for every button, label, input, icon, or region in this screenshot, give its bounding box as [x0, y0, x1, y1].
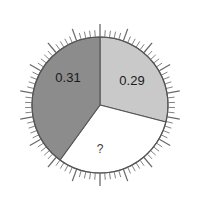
minor-tick-mark [65, 39, 68, 45]
minor-tick-mark [166, 87, 172, 89]
pie-chart-svg: 0.29?0.31 [0, 0, 200, 207]
minor-tick-mark [140, 44, 144, 49]
minor-tick-mark [157, 63, 162, 67]
minor-tick-mark [148, 51, 153, 56]
minor-tick-mark [79, 171, 81, 177]
minor-tick-mark [165, 82, 171, 84]
minor-tick-mark [166, 122, 172, 124]
minor-tick-mark [38, 143, 43, 147]
minor-tick-mark [60, 163, 63, 169]
minor-tick-mark [165, 126, 171, 128]
minor-tick-mark [27, 87, 33, 89]
minor-tick-mark [84, 32, 85, 38]
minor-tick-mark [148, 154, 153, 159]
minor-tick-mark [151, 55, 156, 59]
minor-tick-mark [33, 135, 39, 138]
major-tick-mark [48, 157, 56, 167]
minor-tick-mark [38, 63, 43, 67]
minor-tick-mark [44, 55, 49, 59]
minor-tick-mark [84, 172, 85, 178]
minor-tick-mark [164, 131, 170, 133]
minor-tick-mark [90, 173, 91, 179]
minor-tick-mark [157, 143, 162, 147]
major-tick-mark [144, 157, 152, 167]
minor-tick-mark [44, 151, 49, 155]
minor-tick-mark [162, 135, 168, 138]
minor-tick-mark [128, 168, 131, 174]
minor-tick-mark [168, 112, 174, 113]
minor-tick-mark [41, 59, 46, 63]
minor-tick-mark [151, 151, 156, 155]
minor-tick-mark [65, 165, 68, 171]
major-tick-mark [20, 117, 32, 119]
minor-tick-mark [69, 36, 72, 42]
minor-tick-mark [128, 36, 131, 42]
minor-tick-mark [90, 31, 91, 37]
minor-tick-mark [56, 44, 60, 49]
minor-tick-mark [154, 59, 159, 63]
minor-tick-mark [110, 31, 111, 37]
major-tick-mark [30, 65, 41, 71]
minor-tick-mark [30, 77, 36, 79]
minor-tick-mark [56, 160, 60, 165]
minor-tick-mark [79, 33, 81, 39]
major-tick-mark [72, 29, 76, 41]
major-tick-mark [20, 91, 32, 93]
minor-tick-mark [33, 72, 39, 75]
minor-tick-mark [25, 97, 31, 98]
major-tick-mark [123, 169, 127, 181]
minor-tick-mark [140, 160, 144, 165]
major-tick-mark [48, 43, 56, 53]
pie-chart-figure: 0.29?0.31 [0, 0, 200, 207]
minor-tick-mark [29, 82, 35, 84]
major-tick-mark [30, 139, 41, 145]
minor-tick-mark [136, 41, 139, 47]
minor-tick-mark [25, 112, 31, 113]
minor-tick-mark [30, 131, 36, 133]
pie-slice-label-0.31: 0.31 [55, 70, 80, 85]
minor-tick-mark [119, 33, 121, 39]
minor-tick-mark [119, 171, 121, 177]
minor-tick-mark [114, 32, 115, 38]
minor-tick-mark [29, 126, 35, 128]
minor-tick-mark [27, 122, 33, 124]
major-tick-mark [123, 29, 127, 41]
minor-tick-mark [114, 172, 115, 178]
major-tick-mark [72, 169, 76, 181]
minor-tick-mark [136, 163, 139, 169]
minor-tick-mark [154, 147, 159, 151]
minor-tick-mark [69, 168, 72, 174]
minor-tick-mark [132, 39, 135, 45]
minor-tick-mark [164, 77, 170, 79]
pie-slice-label-unknown: ? [97, 142, 104, 156]
minor-tick-mark [110, 173, 111, 179]
minor-tick-mark [48, 51, 53, 56]
major-tick-mark [159, 139, 170, 145]
minor-tick-mark [162, 72, 168, 75]
minor-tick-mark [168, 97, 174, 98]
major-tick-mark [144, 43, 152, 53]
minor-tick-mark [60, 41, 63, 47]
major-tick-mark [167, 91, 179, 93]
minor-tick-mark [48, 154, 53, 159]
major-tick-mark [167, 117, 179, 119]
major-tick-mark [159, 65, 170, 71]
minor-tick-mark [132, 165, 135, 171]
minor-tick-mark [41, 147, 46, 151]
pie-slice-label-0.29: 0.29 [119, 73, 144, 88]
